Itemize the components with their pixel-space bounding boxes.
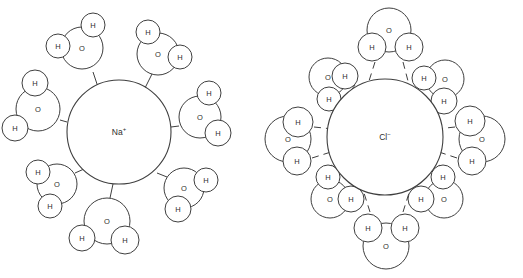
oxygen-label: O <box>79 44 85 53</box>
oxygen-label: O <box>383 242 389 251</box>
hydrogen-label-0: H <box>32 79 37 88</box>
hydrogen-label-1: H <box>122 236 127 245</box>
sodium-panel-water-right: OHH <box>179 81 231 146</box>
hydrogen-label-0: H <box>145 28 150 37</box>
oxygen-label: O <box>479 135 485 144</box>
oxygen-label: O <box>35 105 41 114</box>
hydrogen-label-1: H <box>469 157 474 166</box>
hydrogen-label-0: H <box>35 168 40 177</box>
sodium-panel-water-lower-right: OHH <box>164 168 218 222</box>
sodium-panel: OHHOHHOHHOHHOHHOHHOHHNa+ <box>2 13 231 254</box>
hydrogen-label-0: H <box>325 173 330 182</box>
oxygen-label: O <box>386 26 392 35</box>
diagram-canvas: OHHOHHOHHOHHOHHOHHOHHNa+OHHOHHOHHOHHOHHO… <box>0 0 523 278</box>
oxygen-label: O <box>327 195 333 204</box>
hydrogen-label-1: H <box>326 95 331 104</box>
hydration-diagram-figure: OHHOHHOHHOHHOHHOHHOHHNa+OHHOHHOHHOHHOHHO… <box>0 0 523 278</box>
hydrogen-label-0: H <box>295 118 300 127</box>
sodium-panel-water-upper-right: OHH <box>136 20 192 75</box>
hydrogen-label-1: H <box>348 195 353 204</box>
chloride-panel-water-bottom: OHH <box>354 214 419 269</box>
hydrogen-bond-water-top-0 <box>369 62 375 81</box>
hydrogen-label-0: H <box>342 72 347 81</box>
hydrogen-label-1: H <box>294 157 299 166</box>
hydrogen-bond-water-top-1 <box>403 62 408 81</box>
hydrogen-label-1: H <box>215 129 220 138</box>
oxygen-label: O <box>197 113 203 122</box>
hydrogen-label-0: H <box>203 176 208 185</box>
hydrogen-label-0: H <box>421 74 426 83</box>
oxygen-label: O <box>104 217 110 226</box>
oxygen-label: O <box>54 180 60 189</box>
hydrogen-label-0: H <box>440 173 445 182</box>
ion-dipole-bond-water-lower-right-0 <box>157 173 167 177</box>
hydrogen-label-1: H <box>47 202 52 211</box>
sodium-panel-water-upper-left: OHH <box>46 13 105 69</box>
oxygen-label: O <box>442 75 448 84</box>
oxygen-label: O <box>441 195 447 204</box>
hydrogen-label-0: H <box>206 89 211 98</box>
chloride-panel-water-left: OHH <box>265 107 313 175</box>
hydrogen-label-1: H <box>441 97 446 106</box>
hydrogen-label-0: H <box>79 234 84 243</box>
hydrogen-label-1: H <box>406 43 411 52</box>
hydrogen-label-1: H <box>418 195 423 204</box>
oxygen-label: O <box>325 73 331 82</box>
oxygen-label: O <box>155 50 161 59</box>
ion-dipole-bond-water-bottom-0 <box>110 184 113 198</box>
hydrogen-label-0: H <box>55 42 60 51</box>
ion-dipole-bond-water-left-0 <box>60 120 67 122</box>
hydrogen-label-1: H <box>402 224 407 233</box>
hydrogen-bond-water-bottom-0 <box>364 193 370 212</box>
sodium-panel-water-lower-left: OHH <box>26 160 77 218</box>
chloride-panel-water-top: OHH <box>358 8 423 61</box>
hydrogen-label-0: H <box>365 224 370 233</box>
hydrogen-bond-water-left-1 <box>312 152 331 158</box>
ion-dipole-bond-water-upper-right-0 <box>145 74 152 88</box>
hydrogen-label-1: H <box>12 124 17 133</box>
hydrogen-label-1: H <box>175 205 180 214</box>
hydrogen-label-0: H <box>369 43 374 52</box>
ion-dipole-bond-water-right-0 <box>171 126 179 127</box>
hydrogen-label-1: H <box>177 53 182 62</box>
hydrogen-bond-water-right-1 <box>439 152 457 158</box>
sodium-panel-water-bottom: OHH <box>69 198 139 254</box>
oxygen-label: O <box>181 184 187 193</box>
hydrogen-label-1: H <box>90 21 95 30</box>
chloride-panel: OHHOHHOHHOHHOHHOHHOHHOHHCl− <box>265 8 505 269</box>
chloride-panel-water-right: OHH <box>455 106 505 175</box>
sodium-panel-water-left: OHH <box>2 70 60 141</box>
oxygen-label: O <box>285 135 291 144</box>
hydrogen-label-0: H <box>467 117 472 126</box>
